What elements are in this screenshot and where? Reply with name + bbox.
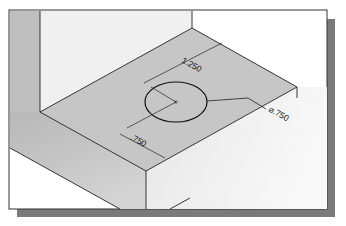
upright-side-face: [10, 11, 40, 112]
isometric-drawing: 1.250 .750 ⌀.750: [0, 0, 346, 226]
